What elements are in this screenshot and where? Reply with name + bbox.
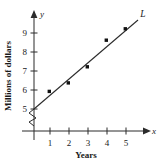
y-tick-label-7: 7 [23, 66, 28, 76]
line-label-L: L [139, 9, 145, 19]
data-point [105, 39, 108, 42]
x-tick-label-2: 2 [67, 138, 72, 148]
x-tick-label-5: 5 [124, 138, 129, 148]
y-tick-label-5: 5 [23, 104, 28, 114]
y-tick-label-6: 6 [23, 85, 28, 95]
plot-canvas: 1 2 3 4 5 5 6 7 8 9 [0, 0, 161, 161]
data-point [86, 65, 89, 68]
y-tick-label-8: 8 [23, 47, 28, 57]
data-point [48, 90, 51, 93]
x-axis [22, 128, 151, 135]
data-points [48, 27, 127, 93]
y-axis-title: Millions of dollars [3, 41, 13, 112]
x-tick-label-1: 1 [48, 138, 53, 148]
data-point [67, 81, 70, 84]
x-tick-label-3: 3 [86, 138, 91, 148]
x-axis-arrowhead [143, 128, 151, 135]
data-point [124, 27, 127, 30]
y-tick-label-9: 9 [23, 28, 28, 38]
x-tick-label-4: 4 [105, 138, 110, 148]
x-axis-symbol: x [151, 126, 156, 136]
y-axis-tick-labels: 5 6 7 8 9 [23, 28, 28, 114]
best-fit-line-L [34, 20, 138, 109]
y-axis-symbol: y [39, 9, 44, 19]
scatter-plot-figure: 1 2 3 4 5 5 6 7 8 9 [0, 0, 161, 161]
y-axis-arrowhead [31, 10, 38, 18]
x-axis-tick-labels: 1 2 3 4 5 [48, 138, 129, 148]
x-axis-title: Years [75, 150, 97, 160]
y-axis-break-icon [29, 109, 36, 126]
